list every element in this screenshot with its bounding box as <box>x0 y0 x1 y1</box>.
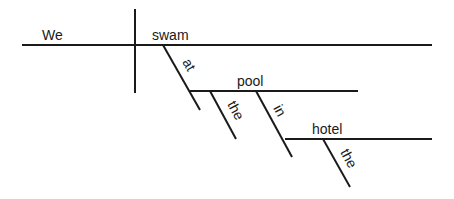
article-the-pool-word: the <box>224 98 247 123</box>
subject-word: We <box>42 27 63 43</box>
prep-at-word: at <box>179 56 199 74</box>
prep-at-slant <box>163 45 200 110</box>
sentence-diagram: We swam at pool the in hotel the <box>0 0 454 199</box>
article-the-hotel-word: the <box>337 146 360 171</box>
prep-in-word: in <box>270 102 289 119</box>
verb-word: swam <box>152 27 189 43</box>
object-hotel-word: hotel <box>312 121 342 137</box>
object-pool-word: pool <box>237 73 263 89</box>
prep-in-slant <box>256 91 292 157</box>
